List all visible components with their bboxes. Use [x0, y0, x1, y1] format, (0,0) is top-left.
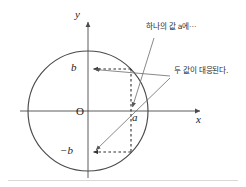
- annotation-two-values: 두 값이 대응된다.: [174, 67, 228, 75]
- math-figure-container: y x O b −b a 하나의 값 a에⋯ 두 값이 대응된다.: [0, 0, 246, 187]
- origin-label: O: [76, 106, 84, 117]
- tick-label-a: a: [132, 112, 138, 123]
- y-axis-label: y: [75, 9, 80, 20]
- tick-label-minus-b: −b: [60, 145, 73, 156]
- annotation-one-value-a: 하나의 값 a에⋯: [146, 23, 196, 31]
- x-axis-label: x: [196, 114, 201, 125]
- tick-label-b: b: [71, 62, 77, 73]
- figure-canvas: [0, 0, 246, 187]
